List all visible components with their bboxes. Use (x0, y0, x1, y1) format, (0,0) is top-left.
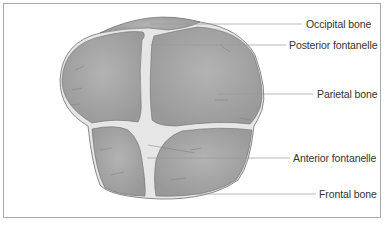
label-frontal-bone: Frontal bone (319, 188, 377, 200)
label-parietal-bone: Parietal bone (317, 88, 378, 100)
right-frontal-bone-shape (155, 128, 253, 196)
label-posterior-fontanelle: Posterior fontanelle (289, 39, 377, 51)
label-occipital-bone: Occipital bone (306, 18, 371, 30)
label-anterior-fontanelle: Anterior fontanelle (293, 152, 376, 164)
